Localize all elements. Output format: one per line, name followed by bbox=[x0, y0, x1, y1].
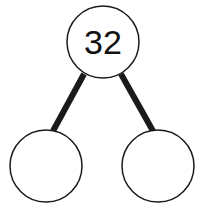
right-connector-line bbox=[121, 74, 153, 131]
whole-value: 32 bbox=[84, 23, 122, 61]
number-bond-diagram: 32 bbox=[0, 0, 204, 216]
left-connector-line bbox=[53, 74, 84, 131]
whole-circle: 32 bbox=[67, 6, 139, 78]
right-part-circle bbox=[122, 130, 194, 202]
left-part-circle bbox=[10, 130, 82, 202]
